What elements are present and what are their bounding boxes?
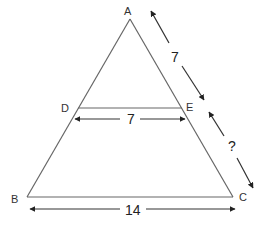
measure-bc: 14 [125, 203, 141, 217]
vertex-label-e: E [186, 102, 193, 113]
diagram-lines [0, 0, 271, 225]
triangle-diagram: A D E B C 7 ? 7 14 [0, 0, 271, 225]
vertex-label-b: B [11, 194, 18, 205]
measure-ec: ? [228, 139, 236, 153]
measure-de: 7 [127, 112, 135, 126]
vertex-label-c: C [239, 192, 247, 203]
measure-ae: 7 [171, 50, 179, 64]
vertex-label-a: A [124, 6, 131, 17]
vertex-label-d: D [61, 103, 69, 114]
